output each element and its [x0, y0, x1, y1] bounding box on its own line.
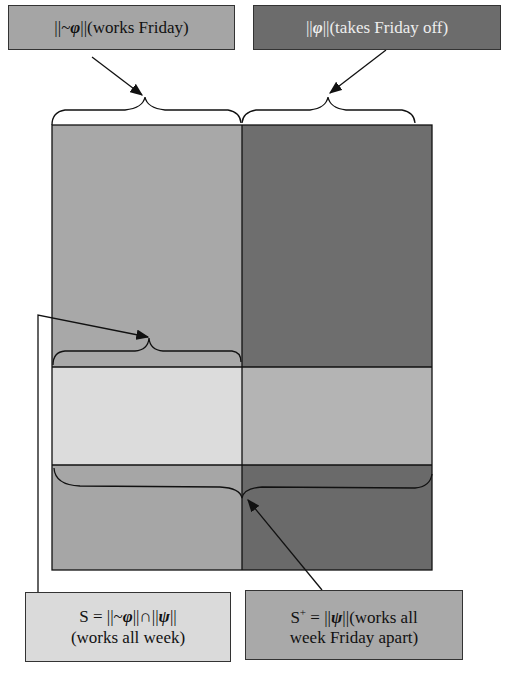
brace-friday-off	[242, 97, 415, 123]
brace-psi	[54, 468, 432, 498]
label-s-mid: ||∩||	[133, 607, 159, 626]
label-works-friday-pre: ||~	[54, 17, 70, 38]
label-splus-line2: week Friday apart)	[290, 627, 418, 648]
psi-symbol: ψ	[331, 607, 342, 626]
label-splus-line1: S+ = ||ψ||(works all	[290, 602, 417, 628]
label-works-friday-post: ||(works Friday)	[80, 17, 188, 38]
brace-works-friday	[52, 97, 241, 125]
label-s-post: ||	[170, 607, 177, 626]
label-s-line1: S = ||~φ||∩||ψ||	[79, 606, 177, 627]
label-friday-off-post: ||(takes Friday off)	[323, 17, 448, 38]
label-s-pre: S = ||~	[79, 607, 123, 626]
label-friday-off-pre: ||	[306, 17, 313, 38]
diagram-lines	[0, 0, 505, 677]
label-splus-s: S	[290, 607, 299, 626]
brace-works-all-week	[53, 338, 241, 365]
phi-symbol: φ	[313, 17, 323, 38]
phi-symbol: φ	[70, 17, 80, 38]
label-works-friday: ||~φ||(works Friday)	[8, 5, 235, 50]
label-splus-mid: = ||	[306, 607, 331, 626]
psi-symbol: ψ	[159, 607, 170, 626]
label-s-line2: (works all week)	[71, 627, 185, 648]
label-splus-post: ||(works all	[342, 607, 417, 626]
phi-symbol: φ	[123, 607, 133, 626]
label-s-plus-psi: S+ = ||ψ||(works all week Friday apart)	[245, 590, 463, 660]
label-s-works-all-week: S = ||~φ||∩||ψ|| (works all week)	[25, 592, 231, 662]
label-takes-friday-off: ||φ||(takes Friday off)	[253, 5, 501, 50]
